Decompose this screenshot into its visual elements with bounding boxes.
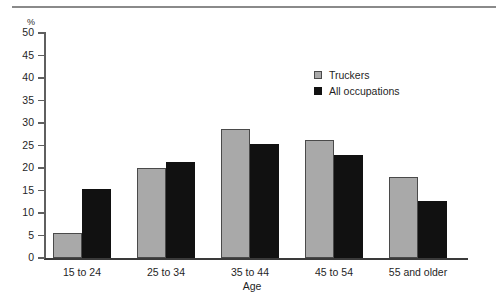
gray-swatch-icon (314, 71, 322, 79)
chart-legend: TruckersAll occupations (314, 68, 400, 100)
legend-item-label: Truckers (329, 69, 369, 81)
bar (418, 201, 447, 258)
legend-item: Truckers (314, 68, 400, 82)
bar (389, 177, 418, 258)
legend-item-label: All occupations (329, 85, 400, 97)
x-axis-category-label: 55 and older (368, 266, 468, 278)
bar-group (0, 0, 504, 307)
x-axis-title: Age (0, 280, 504, 292)
bar-chart-figure: % 50454035302520151050 15 to 2425 to 343… (0, 0, 504, 307)
black-swatch-icon (314, 87, 322, 95)
legend-item: All occupations (314, 84, 400, 98)
